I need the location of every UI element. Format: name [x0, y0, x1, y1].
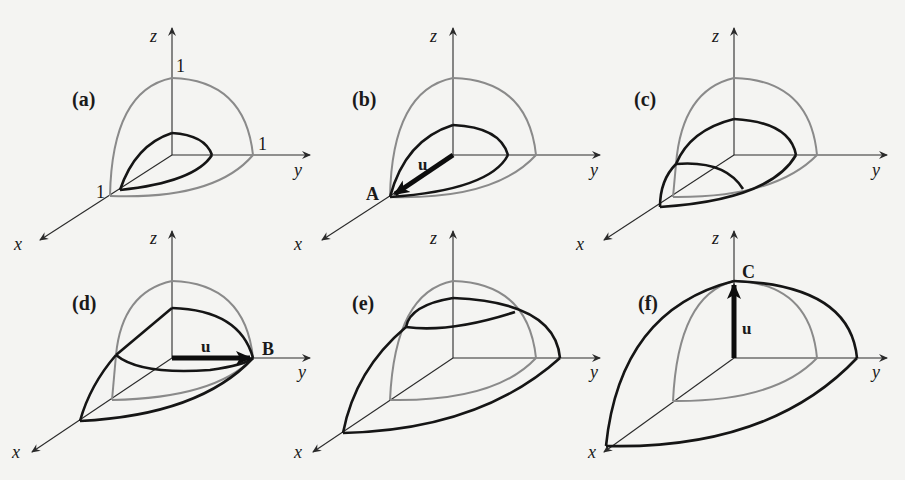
- point-c-label: C: [742, 262, 755, 282]
- z-axis-label: z: [149, 228, 157, 248]
- panel-label-c: (c): [634, 88, 656, 111]
- vector-u-label: u: [418, 155, 427, 174]
- x-tick-1: 1: [96, 182, 105, 202]
- ellipsoid-small: [120, 133, 212, 190]
- vector-u-label: u: [742, 319, 751, 338]
- ellipsoid-diagram: (a) z y x 1 1 1 (b) u A z y x: [0, 0, 905, 480]
- panel-label-b: (b): [352, 88, 376, 111]
- sphere-octant: [390, 78, 536, 197]
- z-axis-label: z: [149, 26, 157, 46]
- axes: [604, 28, 887, 240]
- z-tick-1: 1: [176, 56, 185, 76]
- x-axis-label: x: [575, 234, 584, 254]
- ellipsoid: [80, 308, 253, 421]
- panel-label-a: (a): [72, 88, 95, 111]
- panel-a: (a) z y x 1 1 1: [13, 26, 310, 254]
- z-axis-label: z: [429, 26, 437, 46]
- point-b-label: B: [262, 339, 274, 359]
- sphere-octant: [673, 281, 817, 401]
- y-axis-label: y: [588, 160, 598, 180]
- x-axis-label: x: [13, 234, 22, 254]
- y-axis-label: y: [292, 160, 302, 180]
- panel-c: (c) z y x: [575, 26, 887, 254]
- y-axis-label: y: [588, 362, 598, 382]
- z-axis-label: z: [429, 228, 437, 248]
- z-axis-label: z: [711, 26, 719, 46]
- panel-f: (f) u C z y x: [587, 228, 887, 462]
- sphere-octant: [110, 78, 253, 196]
- panel-e: (e) z y x: [293, 228, 600, 462]
- vector-u-label: u: [201, 337, 210, 356]
- axes: [322, 28, 600, 240]
- x-axis-label: x: [11, 442, 20, 462]
- x-axis-label: x: [293, 234, 302, 254]
- panel-d: (d) u B z y x: [11, 228, 310, 462]
- y-tick-1: 1: [258, 134, 267, 154]
- z-axis-label: z: [711, 228, 719, 248]
- panel-b: (b) u A z y x: [293, 26, 600, 254]
- y-axis-label: y: [870, 362, 880, 382]
- x-axis-label: x: [293, 442, 302, 462]
- y-axis-label: y: [870, 160, 880, 180]
- panel-label-f: (f): [638, 292, 658, 315]
- panel-label-d: (d): [72, 292, 96, 315]
- panel-label-e: (e): [352, 292, 374, 315]
- point-a-label: A: [366, 184, 379, 204]
- x-axis-label: x: [587, 442, 596, 462]
- y-axis-label: y: [296, 362, 306, 382]
